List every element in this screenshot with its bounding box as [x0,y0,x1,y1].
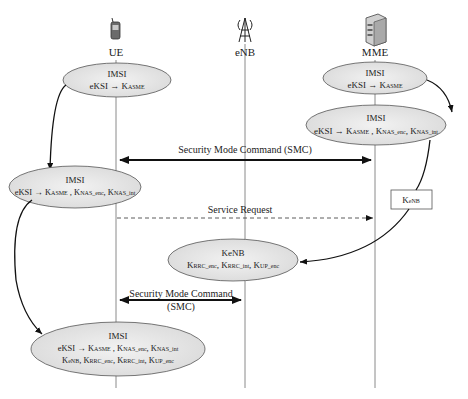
ue-label: UE [109,46,124,58]
smc-message-2-label-line1: Security Mode Command [129,288,232,299]
ue-state-2: IMSI eKSI → KASME , KNAS_enc, KNAS_int [9,166,141,208]
ue-state-1-line1: IMSI [107,69,126,79]
enb-state: KeNB KRRC_enc, KRRC_int, KUP_enc [168,239,298,281]
ue-derive-arrow-2 [15,200,42,334]
smc-message-1-label: Security Mode Command (SMC) [178,144,312,156]
mme-state-2: IMSI eKSI → KASME , KNAS_enc, KNAS_int [306,105,446,145]
enb-state-line1: KeNB [222,248,245,258]
mme-derive-arrow [427,80,452,112]
ue-state-3: IMSI eKSI → KASME , KNAS_enc, KNAS_int K… [31,322,205,376]
kenb-derive-arrow [416,140,430,190]
kenb-key-box: KeNB [391,190,432,209]
service-request-label: Service Request [208,204,273,215]
ue-state-2-line1: IMSI [65,175,84,185]
enb-label: eNB [235,46,255,58]
smc-message-2-label-line2: (SMC) [167,301,195,313]
ue-state-3-line1: IMSI [108,331,127,341]
mme-label: MME [362,46,389,58]
mme-state-1-line1: IMSI [365,68,384,78]
kenb-transfer-arrow [300,209,409,262]
server-icon [366,14,386,46]
antenna-tower-icon [238,18,252,42]
key-hierarchy-sequence-diagram: UE eNB MME IMSI eKSI → KASME IMSI eKSI →… [0,0,468,399]
mme-state-1: IMSI eKSI → KASME [323,62,427,94]
ue-derive-arrow-1 [50,85,66,170]
ue-state-1: IMSI eKSI → KASME [63,63,171,97]
mobile-phone-icon [111,18,120,39]
mme-state-2-line1: IMSI [366,113,385,123]
